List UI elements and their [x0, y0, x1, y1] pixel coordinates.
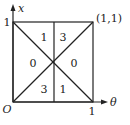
region-label-left: 0: [30, 57, 37, 70]
y-axis-label: x: [18, 2, 25, 15]
y-tick-label: 1: [4, 16, 11, 29]
y-axis-arrow-icon: [11, 4, 16, 11]
x-axis-arrow-icon: [101, 100, 108, 105]
region-label-bottom-right: 1: [60, 83, 67, 96]
region-label-top-left: 1: [41, 31, 48, 44]
unit-square-diagram: 1 3 0 0 3 1 x 1 O 1 θ (1,1): [0, 0, 130, 125]
region-label-right: 0: [71, 57, 78, 70]
corner-label: (1,1): [96, 12, 122, 25]
region-label-top-right: 3: [60, 31, 67, 44]
origin-label: O: [2, 103, 11, 116]
x-axis-label: θ: [110, 96, 117, 109]
region-label-bottom-left: 3: [41, 83, 48, 96]
x-tick-label: 1: [89, 105, 96, 118]
